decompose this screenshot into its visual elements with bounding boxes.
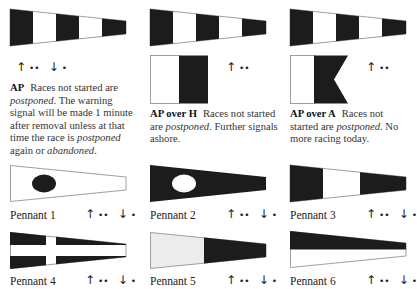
- up-arrow-icon: ↑: [226, 207, 236, 221]
- two-sounds-icon: ••: [239, 210, 250, 220]
- two-sounds-icon: ••: [239, 63, 250, 73]
- ap-pennant-flag: [150, 9, 267, 47]
- pennant-5-label: Pennant 5: [150, 275, 196, 288]
- pennant-4-flag: [10, 232, 127, 270]
- down-arrow-icon: ↓: [49, 60, 59, 74]
- down-arrow-icon: ↓: [259, 273, 269, 287]
- ap-description: APRaces not started are postponed. The w…: [10, 82, 138, 158]
- up-arrow-icon: ↑: [366, 207, 376, 221]
- a-flag: [290, 55, 350, 105]
- pennant-6-label: Pennant 6: [290, 275, 336, 288]
- pennant-4-sound-indicator: ↑••↓•: [85, 274, 136, 287]
- two-sounds-icon: ••: [379, 210, 390, 220]
- two-sounds-icon: ••: [29, 63, 40, 73]
- up-arrow-icon: ↑: [366, 60, 376, 74]
- one-sound-icon: •: [62, 63, 67, 73]
- two-sounds-icon: ••: [98, 210, 109, 220]
- two-sounds-icon: ••: [98, 276, 109, 286]
- pennant-6-sound-indicator: ↑••↓•: [366, 274, 417, 287]
- ap-over-h-description: AP over HRaces not started are postponed…: [150, 108, 280, 146]
- signal-code: AP: [10, 82, 24, 93]
- one-sound-icon: •: [412, 276, 417, 286]
- pennant-6-flag: [290, 231, 407, 269]
- down-arrow-icon: ↓: [118, 207, 128, 221]
- up-arrow-icon: ↑: [85, 207, 95, 221]
- up-arrow-icon: ↑: [226, 60, 236, 74]
- pennant-5-sound-indicator: ↑••↓•: [226, 274, 277, 287]
- down-arrow-icon: ↓: [118, 273, 128, 287]
- pennant-3-label: Pennant 3: [290, 209, 336, 222]
- one-sound-icon: •: [131, 210, 136, 220]
- ap-pennant-flag: [290, 9, 407, 47]
- pennant-2-flag: [150, 165, 267, 203]
- ap-pennant-flag: [10, 9, 127, 47]
- one-sound-icon: •: [272, 210, 277, 220]
- up-arrow-icon: ↑: [85, 273, 95, 287]
- ap-over-a-description: AP over ARaces not started are postponed…: [290, 108, 414, 146]
- ap-sound-indicator: ↑••↓•: [16, 61, 67, 74]
- two-sounds-icon: ••: [239, 276, 250, 286]
- pennant-4-label: Pennant 4: [10, 275, 56, 288]
- down-arrow-icon: ↓: [399, 273, 409, 287]
- two-sounds-icon: ••: [379, 276, 390, 286]
- signal-code: AP over A: [290, 108, 336, 119]
- h-flag: [150, 55, 210, 105]
- up-arrow-icon: ↑: [16, 60, 26, 74]
- down-arrow-icon: ↓: [259, 207, 269, 221]
- up-arrow-icon: ↑: [226, 273, 236, 287]
- one-sound-icon: •: [412, 210, 417, 220]
- one-sound-icon: •: [131, 276, 136, 286]
- up-arrow-icon: ↑: [366, 273, 376, 287]
- down-arrow-icon: ↓: [399, 207, 409, 221]
- pennant-2-sound-indicator: ↑••↓•: [226, 208, 277, 221]
- pennant-3-sound-indicator: ↑••↓•: [366, 208, 417, 221]
- pennant-3-flag: [290, 165, 407, 203]
- ap-over-a-sound-indicator: ↑••: [366, 61, 390, 74]
- two-sounds-icon: ••: [379, 63, 390, 73]
- pennant-1-label: Pennant 1: [10, 209, 56, 222]
- pennant-2-label: Pennant 2: [150, 209, 196, 222]
- one-sound-icon: •: [272, 276, 277, 286]
- pennant-1-flag: [10, 165, 127, 203]
- ap-over-h-sound-indicator: ↑••: [226, 61, 250, 74]
- pennant-5-flag: [150, 232, 267, 270]
- pennant-1-sound-indicator: ↑••↓•: [85, 208, 136, 221]
- signal-code: AP over H: [150, 108, 197, 119]
